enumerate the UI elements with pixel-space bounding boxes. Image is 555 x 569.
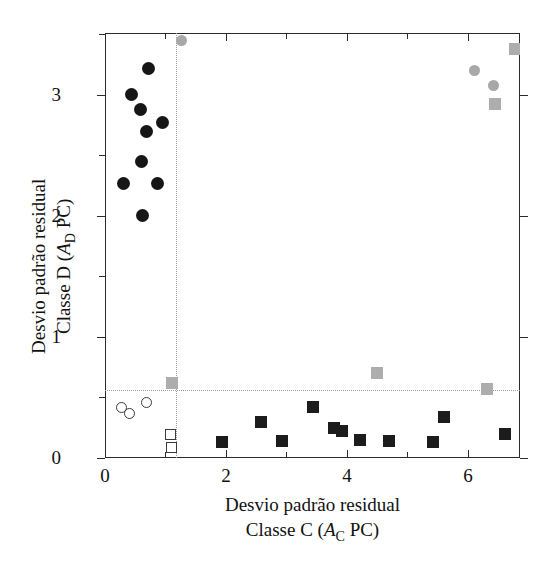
x-axis-title-prefix: Classe C ( xyxy=(246,519,324,540)
data-point xyxy=(124,408,135,419)
x-axis-minor-tick xyxy=(286,452,287,458)
y-axis-tick-right xyxy=(520,458,528,459)
data-point xyxy=(488,80,499,91)
data-point xyxy=(489,98,501,110)
y-axis-minor-tick xyxy=(99,397,105,398)
y-axis-tick-right xyxy=(520,337,528,338)
y-axis-title-prefix: Classe D ( xyxy=(53,255,74,334)
data-point xyxy=(125,88,138,101)
reference-line-vertical xyxy=(176,33,177,458)
data-point xyxy=(151,177,164,190)
data-point xyxy=(117,177,130,190)
data-point xyxy=(336,425,348,437)
x-axis-tick-top xyxy=(468,33,469,41)
x-axis-minor-tick-top xyxy=(165,33,166,39)
data-point xyxy=(136,209,149,222)
x-axis-minor-tick xyxy=(407,452,408,458)
data-point xyxy=(166,442,177,453)
data-point xyxy=(134,103,147,116)
x-axis-title-line1: Desvio padrão residual xyxy=(225,494,400,515)
x-axis-minor-tick xyxy=(165,452,166,458)
y-axis-tick xyxy=(97,458,105,459)
x-axis-title: Desvio padrão residual Classe C (AC PC) xyxy=(105,492,520,549)
y-axis-title-sub: D xyxy=(62,233,78,243)
data-point xyxy=(509,43,520,55)
data-point xyxy=(469,65,480,76)
x-axis-title-line2: Classe C (AC PC) xyxy=(246,519,379,540)
data-point xyxy=(276,435,288,447)
y-axis-title-line1: Desvio padrão residual xyxy=(26,54,51,479)
data-point xyxy=(481,383,493,395)
data-point xyxy=(307,401,319,413)
x-axis-tick xyxy=(347,450,348,458)
x-axis-tick xyxy=(105,450,106,458)
y-axis-title-var: A xyxy=(53,243,74,255)
x-axis-tick-top xyxy=(226,33,227,41)
data-point xyxy=(438,411,450,423)
x-axis-tick xyxy=(468,450,469,458)
y-axis-minor-tick xyxy=(99,155,105,156)
y-axis-title: Desvio padrão residual Classe D (AD PC) xyxy=(26,54,83,479)
x-axis-title-sub: C xyxy=(336,528,345,544)
y-axis-tick xyxy=(97,337,105,338)
data-point xyxy=(142,62,155,75)
data-point xyxy=(140,125,153,138)
x-axis-tick-label: 0 xyxy=(85,466,125,485)
x-axis-tick-label: 4 xyxy=(327,466,367,485)
data-point xyxy=(499,428,511,440)
scatter-plot-figure: 01230246 Desvio padrão residual Classe C… xyxy=(0,0,555,569)
data-point xyxy=(141,397,152,408)
x-axis-tick xyxy=(226,450,227,458)
y-axis-title-suffix: PC) xyxy=(53,199,74,233)
data-point xyxy=(383,435,395,447)
data-point xyxy=(216,436,228,448)
data-point xyxy=(156,116,169,129)
plot-area xyxy=(105,33,520,458)
data-point xyxy=(427,436,439,448)
x-axis-minor-tick-top xyxy=(407,33,408,39)
data-point xyxy=(371,367,383,379)
data-point xyxy=(354,434,366,446)
data-point xyxy=(135,155,148,168)
y-axis-tick-right xyxy=(520,95,528,96)
data-point xyxy=(166,377,178,389)
y-axis-tick-right xyxy=(520,216,528,217)
y-axis-minor-tick xyxy=(99,276,105,277)
y-axis-title-line2: Classe D (AD PC) xyxy=(51,54,83,479)
data-point xyxy=(176,35,187,46)
x-axis-title-var: A xyxy=(324,519,336,540)
x-axis-minor-tick-top xyxy=(286,33,287,39)
x-axis-tick-top xyxy=(347,33,348,41)
data-point xyxy=(255,416,267,428)
x-axis-tick-top xyxy=(105,33,106,41)
data-point xyxy=(165,429,176,440)
reference-line-horizontal xyxy=(105,390,520,391)
x-axis-tick-label: 6 xyxy=(448,466,488,485)
x-axis-title-suffix: PC) xyxy=(345,519,379,540)
y-axis-tick xyxy=(97,216,105,217)
y-axis-tick xyxy=(97,95,105,96)
x-axis-tick-label: 2 xyxy=(206,466,246,485)
